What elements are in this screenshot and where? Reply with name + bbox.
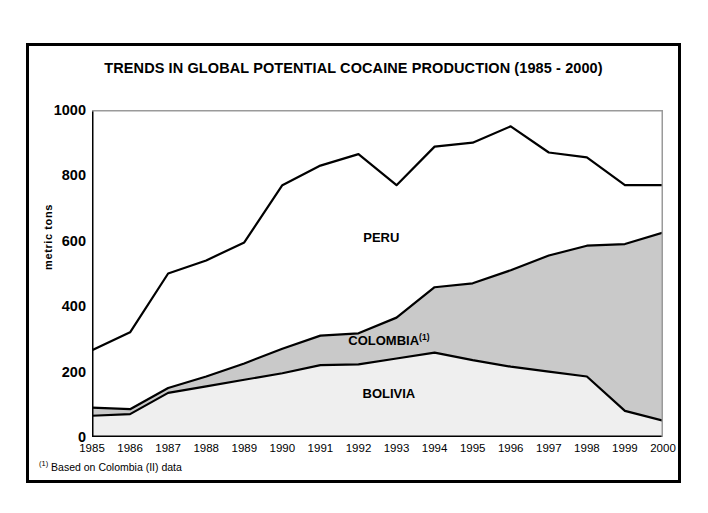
x-tick-label-1997: 1997	[536, 442, 562, 454]
x-axis-ticks: 1985198619871988198919901991199219931994…	[92, 442, 663, 460]
figure-frame: TRENDS IN GLOBAL POTENTIAL COCAINE PRODU…	[26, 43, 681, 483]
y-tick-label-800: 800	[62, 167, 86, 183]
page-title: TRENDS IN GLOBAL POTENTIAL COCAINE PRODU…	[29, 60, 678, 76]
series-label-colombia: COLOMBIA(1)	[348, 332, 429, 348]
series-label-colombia-superscript: (1)	[419, 332, 429, 342]
x-tick-label-1985: 1985	[79, 442, 105, 454]
plot-area: PERU COLOMBIA(1) BOLIVIA	[92, 110, 663, 437]
x-tick-label-1993: 1993	[384, 442, 410, 454]
series-label-peru: PERU	[363, 230, 399, 245]
footnote: (1) Based on Colombia (II) data	[39, 459, 182, 473]
x-tick-label-1989: 1989	[232, 442, 258, 454]
figure-root: TRENDS IN GLOBAL POTENTIAL COCAINE PRODU…	[0, 0, 708, 513]
y-tick-label-1000: 1000	[54, 102, 86, 118]
series-label-colombia-text: COLOMBIA	[348, 333, 419, 348]
x-tick-label-1992: 1992	[346, 442, 372, 454]
x-tick-label-1994: 1994	[422, 442, 448, 454]
x-tick-label-1995: 1995	[460, 442, 486, 454]
x-tick-label-1990: 1990	[270, 442, 296, 454]
x-tick-label-1998: 1998	[574, 442, 600, 454]
series-label-bolivia: BOLIVIA	[363, 386, 416, 401]
y-tick-label-400: 400	[62, 298, 86, 314]
x-tick-label-1996: 1996	[498, 442, 524, 454]
x-tick-label-1986: 1986	[117, 442, 143, 454]
footnote-marker: (1)	[39, 459, 48, 468]
x-tick-label-1991: 1991	[308, 442, 334, 454]
y-tick-label-600: 600	[62, 233, 86, 249]
x-tick-label-2000: 2000	[650, 442, 676, 454]
x-tick-label-1987: 1987	[155, 442, 181, 454]
y-tick-label-200: 200	[62, 364, 86, 380]
y-axis-ticks: 02004006008001000	[29, 110, 86, 437]
x-tick-label-1988: 1988	[193, 442, 219, 454]
x-tick-label-1999: 1999	[612, 442, 638, 454]
footnote-text: Based on Colombia (II) data	[48, 460, 182, 472]
